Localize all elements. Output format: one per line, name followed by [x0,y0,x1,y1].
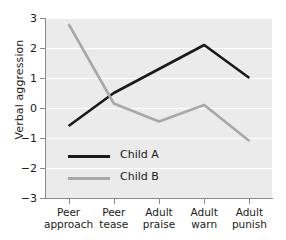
x-axis-tick-label: Adultpunish [218,207,280,230]
y-axis-tick [40,18,45,19]
y-axis-tick-label: 3 [9,13,37,24]
gridline [46,48,272,49]
gridline [46,138,272,139]
chart-figure: Verbal aggression 3210−1−2−3 Peerapproac… [0,0,286,240]
legend-item-child-b: Child B [68,168,178,190]
y-axis-tick-label: 2 [9,43,37,54]
x-axis-tick [69,199,70,204]
gridline [46,78,272,79]
x-axis-tick [114,199,115,204]
x-axis-tick-label-line: punish [218,219,280,231]
y-axis-tick-label: −2 [9,163,37,174]
y-axis-title: Verbal aggression [13,5,26,175]
gridline [46,108,272,109]
legend-swatch-child-a [68,155,110,158]
y-axis-tick [40,48,45,49]
y-axis-tick [40,198,45,199]
legend-label-child-a: Child A [120,148,159,161]
x-axis-tick [159,199,160,204]
y-axis-tick [40,138,45,139]
y-axis-tick-label: −1 [9,133,37,144]
y-axis-tick [40,108,45,109]
legend-item-child-a: Child A [68,146,178,168]
y-axis-tick [40,78,45,79]
gridline [46,18,272,19]
x-axis-tick [204,199,205,204]
x-axis-tick [249,199,250,204]
chart-legend: Child A Child B [68,146,178,190]
y-axis-tick-label: 0 [9,103,37,114]
x-axis-tick-label-line: Adult [218,207,280,219]
y-axis-tick [40,168,45,169]
y-axis-tick-label: 1 [9,73,37,84]
legend-label-child-b: Child B [120,170,159,183]
y-axis-line [45,18,46,199]
legend-swatch-child-b [68,177,110,180]
y-axis-tick-label: −3 [9,193,37,204]
